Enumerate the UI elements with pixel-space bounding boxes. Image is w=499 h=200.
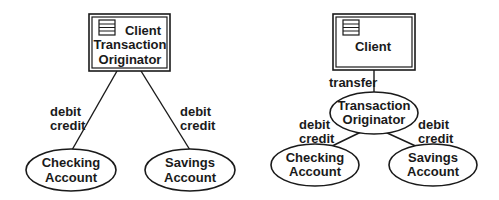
left-diagram: Client Transaction Originator debit cred…: [26, 14, 235, 191]
node-label-line-1: Checking: [286, 150, 345, 165]
node-label-line-1: Savings: [408, 150, 458, 165]
node-label-line-1: Checking: [42, 155, 101, 170]
savings-account-node[interactable]: Savings Account: [145, 149, 235, 191]
client-box[interactable]: Client: [333, 14, 415, 70]
node-label-line-2: Account: [289, 164, 342, 179]
striped-list-icon: [99, 20, 115, 35]
node-label-line-2: Account: [164, 170, 217, 185]
savings-account-node[interactable]: Savings Account: [389, 144, 477, 186]
checking-account-node[interactable]: Checking Account: [271, 144, 359, 186]
node-label-line-2: Account: [407, 164, 460, 179]
right-diagram: Client transfer Transaction Originator d…: [271, 14, 477, 186]
box-label-line-3: Originator: [99, 52, 162, 67]
edge-label-credit: credit: [180, 118, 216, 133]
client-transaction-originator-box[interactable]: Client Transaction Originator: [89, 14, 170, 71]
node-label-line-2: Account: [45, 170, 98, 185]
edge-label-credit: credit: [50, 118, 86, 133]
box-label-line-2: Transaction: [94, 37, 167, 52]
checking-account-node[interactable]: Checking Account: [26, 149, 116, 191]
striped-list-icon: [343, 20, 359, 35]
edge-label-debit: debit: [180, 104, 212, 119]
node-label-line-2: Originator: [343, 112, 406, 127]
edge-label-debit: debit: [50, 104, 82, 119]
diagram-canvas: Client Transaction Originator debit cred…: [0, 0, 499, 200]
edge-label-debit: debit: [299, 117, 331, 132]
node-label-line-1: Transaction: [338, 98, 411, 113]
box-label-line-1: Client: [125, 23, 162, 38]
box-label: Client: [355, 39, 392, 54]
transfer-label: transfer: [329, 75, 377, 90]
edge-label-debit: debit: [418, 117, 450, 132]
transaction-originator-node[interactable]: Transaction Originator: [330, 92, 418, 134]
node-label-line-1: Savings: [165, 155, 215, 170]
